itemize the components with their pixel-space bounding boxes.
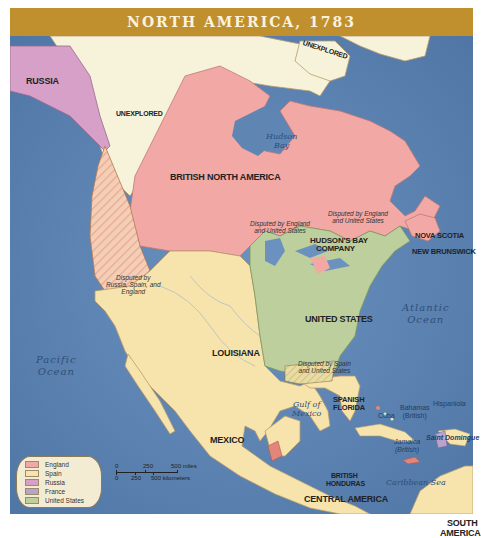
annotation-disputed-maine: Disputed by England and United States	[328, 210, 388, 224]
label-mexico: MEXICO	[210, 435, 244, 445]
legend-item-spain: Spain	[25, 469, 101, 478]
title-bar: NORTH AMERICA, 1783	[10, 8, 473, 36]
legend-swatch-united-states	[25, 497, 39, 504]
label-south-america-2: AMERICA	[440, 528, 481, 538]
map-canvas: RUSSIA UNEXPLORED UNEXPLORED BRITISH NOR…	[10, 36, 473, 514]
label-hudson-bay: Hudson Bay	[266, 132, 297, 150]
label-unexplored-west: UNEXPLORED	[116, 110, 163, 117]
label-central-america: CENTRAL AMERICA	[304, 494, 388, 504]
label-caribbean-sea: Caribbean Sea	[386, 478, 446, 487]
label-gulf-of-mexico: Gulf of Mexico	[292, 400, 321, 418]
legend-swatch-spain	[25, 470, 39, 477]
label-atlantic-ocean: Atlantic Ocean	[402, 302, 449, 326]
label-south-america-1: SOUTH	[447, 518, 478, 528]
label-hudsons-bay-company-2: COMPANY	[316, 244, 355, 253]
map-figure: NORTH AMERICA, 1783	[10, 8, 473, 514]
annotation-disputed-lakes: Disputed by England and United States	[250, 220, 310, 234]
scale-line	[116, 472, 178, 473]
label-new-brunswick: NEW BRUNSWICK	[412, 247, 476, 256]
legend-swatch-russia	[25, 479, 39, 486]
label-saint-domingue: Saint Domingue	[426, 434, 479, 442]
label-louisiana: LOUISIANA	[212, 348, 260, 358]
legend-item-france: France	[25, 487, 101, 496]
label-british-north-america: BRITISH NORTH AMERICA	[170, 172, 280, 182]
label-pacific-ocean: Pacific Ocean	[36, 354, 77, 378]
legend-item-united-states: United States	[25, 496, 101, 505]
legend: England Spain Russia France United State…	[16, 456, 102, 508]
legend-swatch-england	[25, 461, 39, 468]
label-cuba: Cuba	[378, 412, 395, 420]
label-british-honduras-1: BRITISH	[331, 472, 358, 479]
bahamas	[376, 406, 380, 410]
label-british-honduras-2: HONDURAS	[326, 480, 365, 487]
label-nova-scotia: NOVA SCOTIA	[415, 231, 464, 240]
label-hispaniola: Hispaniola	[433, 400, 466, 408]
map-title: NORTH AMERICA, 1783	[127, 14, 356, 30]
legend-item-russia: Russia	[25, 478, 101, 487]
label-spanish-florida-2: FLORIDA	[333, 403, 365, 412]
legend-item-england: England	[25, 460, 101, 469]
annotation-disputed-oregon: Disputed by Russia, Spain, and England	[106, 274, 161, 295]
annotation-disputed-south: Disputed by Spain and United States	[298, 360, 351, 374]
label-russia: RUSSIA	[26, 76, 59, 86]
legend-swatch-france	[25, 488, 39, 495]
scale-bar: 0 250 500 miles 0 250 500 kilometers	[115, 463, 195, 493]
label-bahamas: Bahamas (British)	[400, 404, 430, 420]
label-jamaica: Jamaica (British)	[394, 438, 420, 454]
label-united-states: UNITED STATES	[305, 314, 373, 324]
